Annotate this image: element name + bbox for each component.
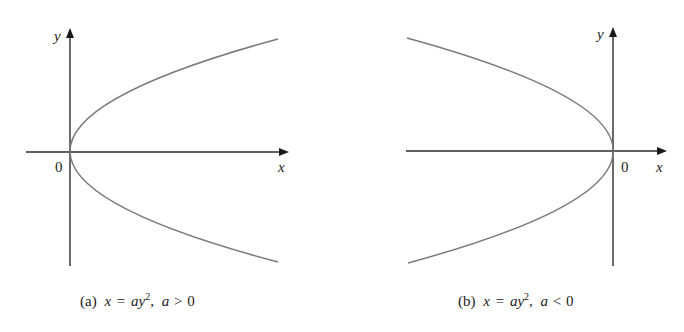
- y-axis-label-b: y: [595, 26, 604, 42]
- x-axis-arrow-icon-a: [279, 148, 289, 156]
- parabola-figure: y 0 x (a) x = ay2, a > 0 y 0 x (b) x = a…: [0, 0, 684, 332]
- panel-a: y 0 x (a) x = ay2, a > 0: [26, 28, 289, 310]
- x-axis-arrow-icon-b: [657, 147, 667, 155]
- y-axis-arrow-icon-a: [66, 28, 74, 38]
- x-axis-label-b: x: [655, 159, 663, 175]
- origin-label-b: 0: [621, 159, 629, 175]
- caption-a: (a) x = ay2, a > 0: [80, 291, 195, 310]
- origin-label-a: 0: [55, 159, 63, 175]
- panel-b: y 0 x (b) x = ay2, a < 0: [406, 26, 667, 310]
- y-axis-arrow-icon-b: [609, 27, 617, 37]
- caption-b: (b) x = ay2, a < 0: [458, 291, 574, 310]
- x-axis-label-a: x: [277, 159, 285, 175]
- y-axis-label-a: y: [52, 28, 61, 44]
- parabola-curve-a: [70, 39, 278, 262]
